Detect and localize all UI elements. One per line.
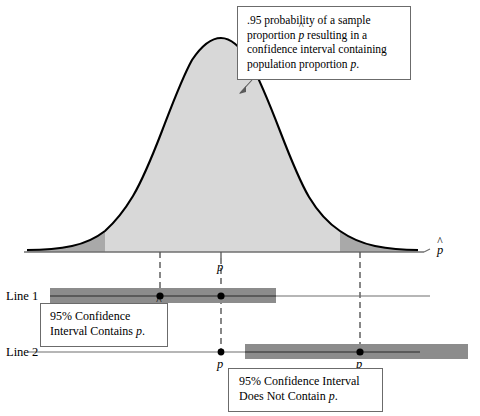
callout-top-line-3: confidence interval containing (247, 42, 402, 57)
callout-top-probability: .95 probability of a sample proportion p… (237, 6, 411, 80)
callout-line2-line-1: 95% Confidence Interval (239, 374, 375, 389)
line2-p-label: p (217, 357, 223, 372)
distribution-axis-label: p (437, 243, 443, 258)
callout-line1-contains: 95% Confidence Interval Contains p. (40, 303, 168, 347)
callout-top-line-1: .95 probability of a sample (247, 13, 402, 28)
statistics-figure: .95 probability of a sample proportion p… (0, 0, 480, 416)
line1-p-dot (217, 292, 224, 299)
callout-line2-line-2: Does Not Contain p. (239, 389, 375, 404)
callout-top-line-4: population proportion p. (247, 57, 402, 72)
line1-row-label: Line 1 (6, 289, 38, 304)
distribution-axis-tip (424, 249, 430, 252)
callout-line1-line-2: Interval Contains p. (50, 324, 160, 339)
line2-phat-dot (356, 348, 363, 355)
distribution-center-label: p (217, 260, 223, 275)
callout-line2-not-contains: 95% Confidence Interval Does Not Contain… (228, 368, 383, 412)
callout-top-line-2: proportion p resulting in a (247, 28, 402, 43)
line2-p-dot-left (218, 349, 225, 356)
callout-line1-line-1: 95% Confidence (50, 309, 160, 324)
line2-row-label: Line 2 (6, 345, 38, 360)
